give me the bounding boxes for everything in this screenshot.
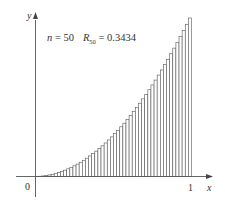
riemann-bar — [145, 94, 148, 176]
riemann-bar — [188, 18, 191, 177]
riemann-bar — [117, 130, 120, 176]
riemann-bar — [163, 65, 166, 177]
riemann-bar — [123, 123, 126, 176]
riemann-bar — [126, 119, 129, 176]
riemann-bar — [95, 151, 98, 176]
riemann-bar — [185, 24, 188, 176]
y-axis-arrow-icon — [33, 12, 38, 19]
riemann-bar — [176, 42, 179, 176]
riemann-bar — [120, 127, 123, 177]
riemann-bar — [70, 167, 73, 176]
riemann-bar — [101, 146, 104, 177]
riemann-bar — [182, 30, 185, 176]
riemann-bar — [154, 80, 157, 176]
riemann-bar — [110, 137, 113, 177]
riemann-sum-chart: y x 0 1 n = 50R50 = 0.3434 — [0, 0, 225, 209]
y-axis-label: y — [26, 10, 32, 21]
riemann-bar — [157, 75, 160, 176]
riemann-bar — [104, 143, 107, 177]
n-value: = 50 — [52, 32, 74, 43]
riemann-bar — [67, 169, 70, 177]
riemann-bar — [89, 156, 92, 177]
riemann-bar — [114, 134, 117, 177]
riemann-bar — [132, 112, 135, 177]
riemann-bar — [79, 162, 82, 176]
riemann-bar — [170, 54, 173, 177]
riemann-bar — [107, 140, 110, 177]
riemann-bar — [151, 85, 154, 177]
riemann-bar — [73, 166, 76, 177]
riemann-bar — [160, 70, 163, 177]
riemann-annotation: n = 50R50 = 0.3434 — [47, 32, 137, 45]
riemann-bar — [138, 103, 141, 176]
x-axis-label: x — [206, 182, 212, 193]
r-value: = 0.3434 — [96, 32, 137, 43]
riemann-bar — [167, 59, 170, 176]
riemann-bar — [76, 164, 79, 176]
riemann-bar — [82, 160, 85, 176]
riemann-bar — [148, 90, 151, 177]
riemann-bar — [129, 116, 132, 177]
riemann-bar — [85, 158, 88, 176]
x-tick-1: 1 — [188, 182, 193, 193]
riemann-bar — [179, 36, 182, 176]
riemann-bar — [92, 154, 95, 177]
riemann-bar — [142, 99, 145, 177]
riemann-bar — [173, 48, 176, 176]
riemann-bar — [64, 170, 67, 176]
riemann-bar — [60, 171, 63, 176]
riemann-bar — [98, 149, 101, 177]
riemann-bar — [54, 173, 57, 176]
riemann-bar — [57, 172, 60, 176]
riemann-bar — [135, 107, 138, 176]
x-tick-0: 0 — [25, 181, 30, 192]
x-axis-arrow-icon — [206, 174, 213, 179]
